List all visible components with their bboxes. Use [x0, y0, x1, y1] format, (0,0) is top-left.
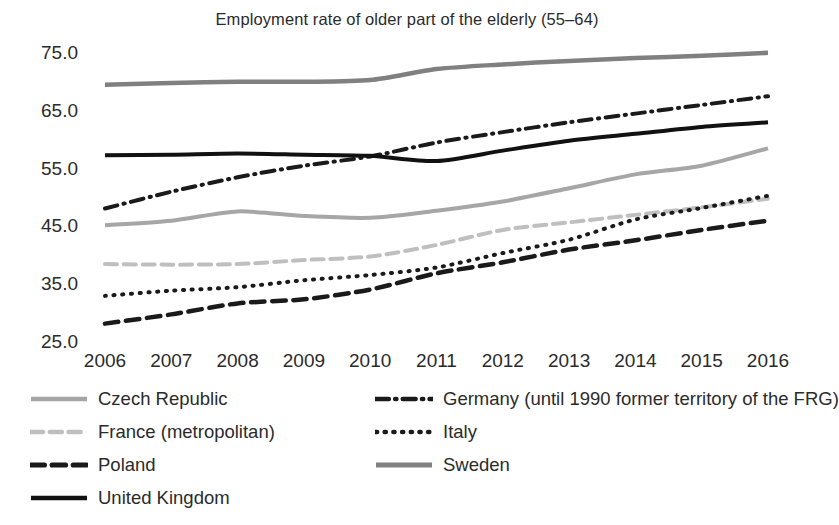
y-tick-label: 45.0: [14, 215, 78, 237]
legend-swatch: [30, 390, 88, 408]
x-tick-label: 2010: [335, 350, 405, 372]
legend-item-label: Italy: [443, 423, 477, 442]
legend-item[interactable]: France (metropolitan): [30, 419, 275, 445]
legend-item[interactable]: Germany (until 1990 former territory of …: [375, 386, 839, 412]
chart-legend: Czech RepublicGermany (until 1990 former…: [30, 386, 810, 511]
legend-swatch: [375, 423, 433, 441]
x-tick-label: 2013: [534, 350, 604, 372]
legend-item-label: United Kingdom: [98, 489, 230, 508]
legend-item-label: France (metropolitan): [98, 423, 275, 442]
y-tick-label: 25.0: [14, 331, 78, 353]
legend-item-label: Czech Republic: [98, 390, 228, 409]
legend-item[interactable]: Czech Republic: [30, 386, 228, 412]
legend-swatch: [30, 456, 88, 474]
legend-swatch: [375, 456, 433, 474]
legend-swatch: [30, 489, 88, 507]
legend-item-label: Poland: [98, 456, 156, 475]
legend-swatch: [30, 423, 88, 441]
legend-item[interactable]: Sweden: [375, 452, 510, 478]
series-line: [105, 53, 768, 85]
legend-swatch-line: [375, 423, 433, 441]
x-tick-label: 2009: [269, 350, 339, 372]
legend-swatch-line: [30, 489, 88, 507]
legend-swatch-line: [30, 423, 88, 441]
x-tick-label: 2007: [136, 350, 206, 372]
x-tick-label: 2011: [402, 350, 472, 372]
x-tick-label: 2006: [70, 350, 140, 372]
series-line: [105, 122, 768, 161]
series-line: [105, 221, 768, 324]
y-tick-label: 65.0: [14, 100, 78, 122]
y-tick-label: 55.0: [14, 158, 78, 180]
x-tick-label: 2016: [733, 350, 803, 372]
y-tick-label: 35.0: [14, 273, 78, 295]
x-tick-label: 2014: [600, 350, 670, 372]
legend-item[interactable]: Poland: [30, 452, 156, 478]
series-line: [105, 199, 768, 265]
legend-swatch-line: [375, 390, 433, 408]
x-tick-label: 2008: [203, 350, 273, 372]
y-tick-label: 75.0: [14, 42, 78, 64]
legend-swatch: [375, 390, 433, 408]
x-tick-label: 2012: [468, 350, 538, 372]
legend-swatch-line: [375, 456, 433, 474]
legend-item-label: Sweden: [443, 456, 510, 475]
legend-swatch-line: [30, 390, 88, 408]
legend-item[interactable]: Italy: [375, 419, 477, 445]
legend-item-label: Germany (until 1990 former territory of …: [443, 390, 839, 409]
legend-item[interactable]: United Kingdom: [30, 485, 230, 511]
x-tick-label: 2015: [667, 350, 737, 372]
legend-swatch-line: [30, 456, 88, 474]
